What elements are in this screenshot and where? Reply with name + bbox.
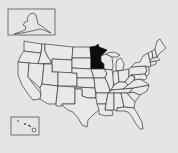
state-hawaii	[17, 120, 36, 132]
state-wyoming	[52, 59, 72, 73]
hawaii-inset	[11, 117, 39, 135]
state-new-york	[131, 53, 151, 67]
state-arizona	[40, 84, 58, 104]
state-north-dakota	[72, 47, 91, 58]
state-connecticut	[150, 61, 156, 66]
state-south-dakota	[72, 58, 91, 69]
hawaii-inset-frame	[11, 117, 39, 135]
state-colorado	[58, 72, 77, 86]
contiguous-states	[18, 39, 166, 129]
state-alaska	[14, 13, 51, 34]
state-new-mexico	[56, 86, 75, 106]
state-kansas	[77, 78, 95, 88]
state-maine	[155, 39, 166, 57]
us-map: United States Minnesota	[0, 0, 178, 153]
state-florida	[117, 107, 143, 129]
map-svg	[0, 0, 178, 153]
alaska-inset	[8, 9, 55, 35]
